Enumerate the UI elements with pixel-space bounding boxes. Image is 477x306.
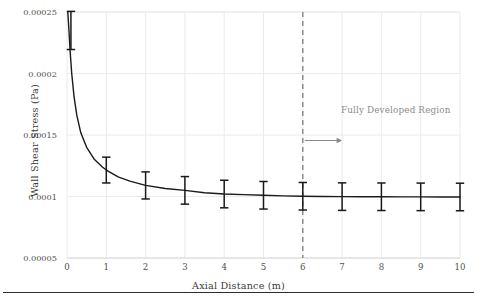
x-tick-label: 4 — [221, 262, 226, 272]
plot-area — [67, 12, 460, 258]
x-tick-label: 10 — [455, 262, 466, 272]
x-tick-label: 7 — [339, 262, 344, 272]
x-tick-label: 3 — [182, 262, 187, 272]
annotation-layer — [67, 12, 460, 258]
y-axis-label: Wall Shear Stress (Pa) — [29, 41, 40, 241]
x-tick-label: 9 — [418, 262, 423, 272]
chart-figure: 0.000050.00010.000150.00020.00025 012345… — [0, 0, 477, 306]
x-axis-tick-labels: 012345678910 — [0, 262, 477, 276]
x-tick-label: 6 — [300, 262, 305, 272]
x-axis-label: Axial Distance (m) — [0, 280, 477, 291]
y-tick-label: 0.00025 — [23, 7, 57, 17]
bottom-divider — [3, 292, 474, 293]
annotation-arrow-head — [337, 138, 343, 144]
x-tick-label: 0 — [64, 262, 69, 272]
x-tick-label: 5 — [261, 262, 266, 272]
x-tick-label: 1 — [104, 262, 109, 272]
fully-developed-region-annotation: Fully Developed Region — [341, 105, 451, 115]
x-tick-label: 2 — [143, 262, 148, 272]
x-tick-label: 8 — [379, 262, 384, 272]
